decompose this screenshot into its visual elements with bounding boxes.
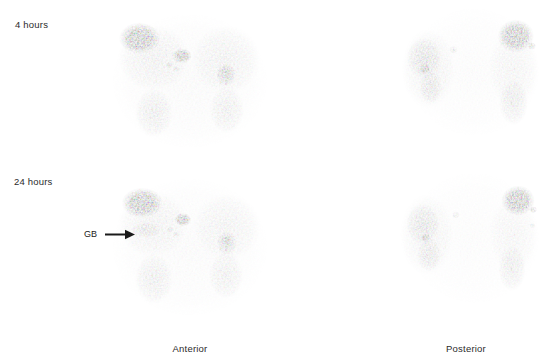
uptake-region-small-focus-a (165, 62, 173, 68)
uptake-region-left-kidney-focus (419, 64, 431, 74)
uptake-region-right-lower-organ (498, 245, 525, 291)
scintigraphy-figure: 4 hours 24 hours GB Anterior Posterior (0, 0, 552, 364)
scan-panel-posterior-4-hours (398, 8, 550, 160)
uptake-region-gallbladder (132, 223, 161, 238)
scan-image-posterior-4-hours (398, 8, 550, 160)
uptake-region-right-lower-organ (209, 252, 243, 299)
scan-panel-anterior-4-hours (100, 8, 280, 160)
uptake-region-left-lower-organ (135, 89, 173, 138)
row-label-24-hours: 24 hours (14, 176, 53, 187)
uptake-region-small-focus-right (529, 223, 535, 228)
uptake-region-right-lower-organ (499, 79, 528, 125)
uptake-region-right-flank-focus (221, 67, 230, 75)
column-label-anterior: Anterior (173, 343, 208, 354)
gallbladder-annotation-label: GB (84, 229, 97, 239)
uptake-region-small-focus-b (173, 66, 180, 71)
uptake-region-midline-small-focus (449, 46, 458, 54)
uptake-region-focal-hot-spot-midline (172, 48, 192, 63)
uptake-region-focal-hot-spot-midline (174, 213, 191, 226)
uptake-region-small-focus-a (167, 227, 174, 232)
scan-image-posterior-24-hours (398, 174, 550, 326)
arrow-right-icon (105, 228, 135, 241)
row-label-4-hours: 4 hours (15, 19, 48, 30)
uptake-region-right-flank-uptake (216, 63, 236, 86)
scan-image-anterior-24-hours (100, 174, 280, 326)
uptake-region-focal-hot-spot-upper-left (119, 22, 160, 54)
uptake-region-right-flank-focus (221, 235, 231, 243)
uptake-region-left-lower-organ (135, 254, 173, 304)
scan-panel-posterior-24-hours (398, 174, 550, 326)
scan-image-anterior-4-hours (100, 8, 280, 160)
uptake-region-focal-hot-spot-upper-left (122, 188, 163, 218)
uptake-region-right-lower-organ (210, 86, 244, 133)
uptake-region-small-focus-b (173, 231, 180, 236)
scan-panel-anterior-24-hours (100, 174, 280, 326)
uptake-region-focal-hot-spot-upper-right (498, 19, 534, 52)
uptake-region-focal-hot-spot-upper-right (501, 185, 534, 215)
column-label-posterior: Posterior (446, 343, 486, 354)
uptake-region-left-kidney-focus (421, 234, 430, 243)
uptake-region-midline-small-focus (452, 211, 460, 218)
